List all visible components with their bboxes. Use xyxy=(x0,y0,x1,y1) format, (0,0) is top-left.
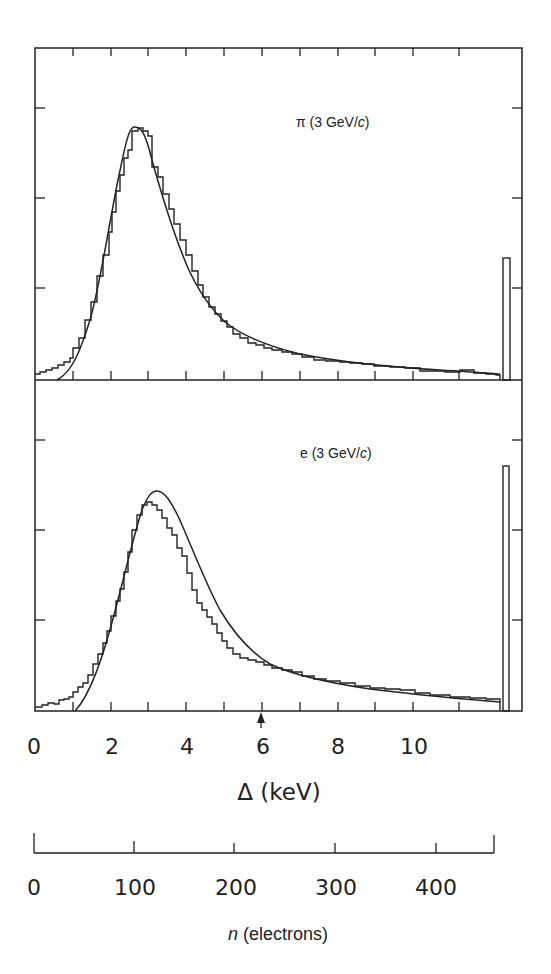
n-tick-label: 100 xyxy=(114,875,156,900)
electron-fit-curve xyxy=(75,491,500,711)
x-tick-label: 2 xyxy=(105,734,119,759)
electron-overflow-bar xyxy=(503,466,509,711)
n-axis-title: n (electrons) xyxy=(228,924,328,944)
x-tick-label: 4 xyxy=(180,734,194,759)
pion-overflow-bar xyxy=(503,258,510,380)
x-axis-title: Δ (keV) xyxy=(237,779,320,805)
energy-loss-figure: π (3 GeV/c) e (3 GeV/c) 0 2 4 6 8 10 Δ (… xyxy=(0,0,551,974)
x-tick-label: 0 xyxy=(27,734,41,759)
lower-panel-ticks xyxy=(35,440,522,711)
pion-panel: π (3 GeV/c) xyxy=(35,114,510,380)
x-tick-label: 8 xyxy=(331,734,345,759)
electron-count-axis: 0 100 200 300 400 n (electrons) xyxy=(27,833,494,944)
energy-axis: 0 2 4 6 8 10 Δ (keV) xyxy=(27,712,428,805)
n-tick-label: 400 xyxy=(415,875,457,900)
n-tick-label: 300 xyxy=(315,875,357,900)
x-tick-label: 6 xyxy=(256,734,270,759)
arrow-up-icon xyxy=(257,712,265,728)
plot-frame xyxy=(35,48,522,711)
upper-panel-ticks xyxy=(35,48,522,380)
x-tick-label: 10 xyxy=(400,734,428,759)
electron-panel: e (3 GeV/c) xyxy=(35,445,509,711)
n-tick-label: 0 xyxy=(27,875,41,900)
n-tick-label: 200 xyxy=(215,875,257,900)
electron-panel-label: e (3 GeV/c) xyxy=(300,445,372,461)
electron-histogram xyxy=(35,502,500,711)
pion-panel-label: π (3 GeV/c) xyxy=(296,114,370,130)
